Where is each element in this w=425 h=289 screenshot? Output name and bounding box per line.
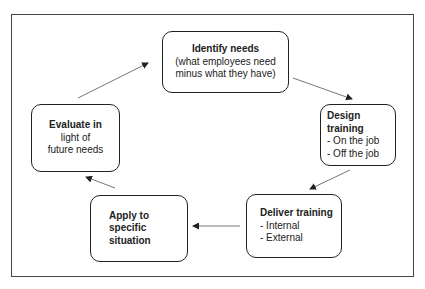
- node-apply: Apply to specific situation: [90, 195, 188, 262]
- node-line: - Off the job: [327, 148, 395, 161]
- arrow-design-to-deliver: [310, 170, 350, 189]
- arrow-identify-to-design: [293, 78, 352, 99]
- node-title: Evaluate in: [49, 119, 102, 132]
- node-line: light of: [61, 132, 90, 145]
- arrow-apply-to-evaluate: [86, 177, 115, 188]
- node-identify-needs: Identify needs (what employees need minu…: [162, 31, 289, 93]
- node-title: Identify needs: [192, 43, 259, 56]
- node-line: specific: [109, 222, 187, 235]
- node-evaluate: Evaluate in light of future needs: [31, 104, 120, 172]
- node-title: Design training: [327, 110, 395, 135]
- node-design-training: Design training - On the job - Off the j…: [320, 104, 396, 166]
- node-title: Deliver training: [260, 207, 341, 220]
- node-line: future needs: [48, 144, 104, 157]
- node-line: - On the job: [327, 135, 395, 148]
- node-line: (what employees need: [175, 56, 276, 69]
- node-line: minus what they have): [175, 68, 275, 81]
- arrow-evaluate-to-identify: [78, 63, 148, 98]
- node-line: - External: [260, 232, 341, 245]
- node-line: situation: [109, 235, 187, 248]
- node-deliver-training: Deliver training - Internal - External: [246, 194, 342, 258]
- node-line: - Internal: [260, 220, 341, 233]
- node-title: Apply to: [109, 210, 187, 223]
